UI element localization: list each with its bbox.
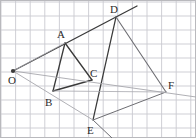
vertex-label-d: D (110, 3, 118, 15)
geometry-figure-svg: OABCDEF (0, 0, 196, 138)
vertex-label-o: O (8, 74, 16, 86)
vertex-label-c: C (90, 67, 97, 79)
figure-background (0, 0, 196, 138)
vertex-dot-o (11, 69, 15, 73)
vertex-label-a: A (57, 28, 65, 40)
figure-points (11, 69, 15, 73)
geometry-figure-canvas: OABCDEF (0, 0, 196, 138)
vertex-label-b: B (45, 96, 52, 108)
vertex-label-f: F (168, 79, 174, 91)
vertex-label-e: E (87, 124, 94, 136)
